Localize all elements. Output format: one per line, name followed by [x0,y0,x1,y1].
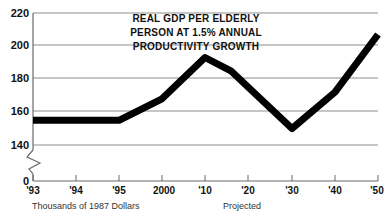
x-tick-label-2010: '10 [198,185,212,196]
x-tick-label-2040: '40 [328,185,342,196]
x-tick-label-2020: '20 [241,185,255,196]
x-tick-label-1995: '95 [112,185,126,196]
x-tick-label-1993: '93 [26,185,40,196]
chart-title: REAL GDP PER ELDERLY PERSON AT 1.5% ANNU… [130,13,262,52]
chart-title-line-3: PRODUCTIVITY GROWTH [133,41,259,52]
units-note: Thousands of 1987 Dollars [32,201,140,211]
chart-title-line-1: REAL GDP PER ELDERLY [132,13,259,24]
y-tick-label-220: 220 [11,7,29,19]
x-tick-label-1994: '94 [69,185,83,196]
chart-container: 220 200 180 160 140 0 '93 '94 '95 2000 '… [0,0,392,220]
chart-title-line-2: PERSON AT 1.5% ANNUAL [130,27,262,38]
y-tick-label-200: 200 [11,39,29,51]
x-tick-label-2050: '50 [370,185,384,196]
y-tick-label-180: 180 [11,72,29,84]
y-tick-label-160: 160 [11,105,29,117]
x-tick-label-2030: '30 [285,185,299,196]
x-tick-label-2000: 2000 [153,185,176,196]
y-tick-labels: 220 200 180 160 140 0 [11,7,29,187]
x-tick-labels: '93 '94 '95 2000 '10 '20 '30 '40 '50 [26,185,384,196]
gdp-line-chart: 220 200 180 160 140 0 '93 '94 '95 2000 '… [0,0,392,220]
y-tick-label-140: 140 [11,139,29,151]
x-axis [33,175,378,181]
projected-note: Projected [223,201,261,211]
